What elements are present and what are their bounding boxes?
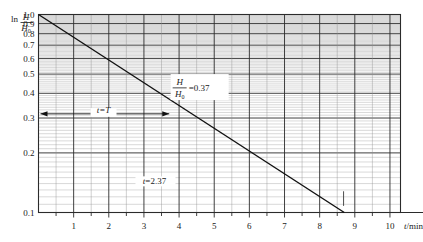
x-tick-label: 2 [107,221,112,231]
y-axis-label-prefix: ln [11,14,19,24]
ratio-value: =0.37 [189,83,210,93]
y-tick-label: 0.4 [23,88,35,98]
x-tick-label: 6 [247,221,252,231]
y-tick-label: 0.5 [23,69,35,79]
x-tick-label: 1 [71,221,76,231]
x-tick-label: 8 [317,221,322,231]
x-tick-label: 9 [353,221,358,231]
x-tick-label: 5 [212,221,217,231]
time-value-label: t=2.37 [143,176,167,186]
x-tick-label: 4 [177,221,182,231]
ratio-numerator: H [175,77,183,87]
y-tick-label: 0.7 [23,40,35,50]
x-tick-label: 7 [282,221,287,231]
x-axis-label: t/min [404,221,423,231]
chart-figure: 1.00.90.80.70.60.50.40.30.20.11234567891… [0,0,423,242]
x-tick-label: 10 [385,221,395,231]
x-tick-label: 3 [142,221,147,231]
y-axis-label-numerator: H [22,12,30,22]
y-tick-label: 0.2 [23,148,34,158]
y-tick-label: 0.6 [23,54,35,64]
y-tick-label: 0.1 [23,208,34,218]
y-tick-label: 0.3 [23,113,35,123]
time-constant-label: t=T [97,105,112,115]
semilog-decay-chart: 1.00.90.80.70.60.50.40.30.20.11234567891… [0,0,423,242]
